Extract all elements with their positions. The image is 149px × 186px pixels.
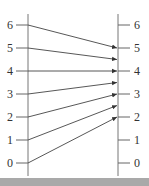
mapping-arrow [28,48,117,60]
right-tick-label: 4 [134,64,140,78]
mapping-arrow [28,117,117,163]
mapping-arrow [28,83,117,95]
left-tick-label: 2 [7,110,13,124]
right-tick-label: 1 [134,133,140,147]
left-tick-label: 5 [7,41,13,55]
left-tick-label: 3 [7,87,13,101]
left-tick-label: 6 [7,18,13,32]
left-tick-label: 1 [7,133,13,147]
left-tick-label: 0 [7,156,13,170]
right-tick-label: 0 [134,156,140,170]
left-tick-label: 4 [7,64,13,78]
right-tick-label: 5 [134,41,140,55]
right-tick-label: 2 [134,110,140,124]
mapping-arrow [28,94,117,117]
right-tick-label: 6 [134,18,140,32]
number-line-mapping-diagram: 0123456 0123456 [0,0,149,178]
right-tick-label: 3 [134,87,140,101]
footer-bar [0,178,149,186]
mapping-arrow [28,106,117,141]
mapping-arrow [28,25,117,48]
